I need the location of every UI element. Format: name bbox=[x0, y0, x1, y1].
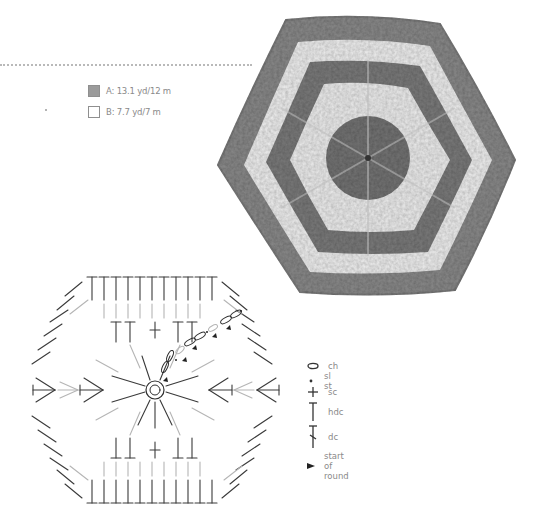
legend-label-ch: ch bbox=[328, 361, 338, 371]
legend-label-hdc: hdc bbox=[328, 407, 343, 417]
stray-mark bbox=[45, 109, 47, 111]
yarn-legend-item-a: A: 13.1 yd/12 m bbox=[88, 80, 171, 101]
yarn-b-label: B: 7.7 yd/7 m bbox=[106, 107, 161, 117]
yarn-a-swatch bbox=[88, 85, 100, 97]
crochet-hexagon-photo bbox=[210, 10, 530, 305]
legend-item-sc: sc bbox=[304, 384, 337, 400]
legend-item-hdc: hdc bbox=[304, 401, 343, 423]
yarn-a-label: A: 13.1 yd/12 m bbox=[106, 86, 171, 96]
legend-item-start-of-round: start of round bbox=[304, 451, 353, 481]
legend-label-start-of-round: start of round bbox=[324, 451, 353, 481]
legend-label-sc: sc bbox=[328, 387, 337, 397]
legend-item-dc: dc bbox=[304, 424, 338, 450]
stitch-chart bbox=[20, 262, 300, 517]
double-crochet-icon bbox=[304, 424, 322, 450]
single-crochet-icon bbox=[304, 384, 322, 400]
yarn-b-swatch bbox=[88, 106, 100, 118]
yarn-legend-item-b: B: 7.7 yd/7 m bbox=[88, 101, 171, 122]
half-double-crochet-icon bbox=[304, 401, 322, 423]
yarn-legend: A: 13.1 yd/12 m B: 7.7 yd/7 m bbox=[88, 80, 171, 122]
start-of-round-icon bbox=[304, 458, 318, 474]
legend-label-dc: dc bbox=[328, 432, 338, 442]
